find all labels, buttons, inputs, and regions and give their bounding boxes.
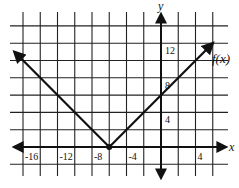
y-tick-label: 4	[165, 114, 170, 125]
vertex-point	[106, 144, 112, 150]
x-tick-label: -8	[94, 151, 102, 162]
y-tick-label: 8	[165, 80, 170, 91]
absolute-value-graph: -16-12-8-44 1284 x y f(x)	[0, 0, 239, 188]
function-label: f(x)	[212, 51, 230, 66]
y-axis-label: y	[157, 0, 164, 13]
grid-lines	[10, 12, 228, 176]
x-tick-labels: -16-12-8-44	[25, 151, 203, 162]
x-tick-label: 4	[198, 151, 203, 162]
x-tick-label: -12	[60, 151, 73, 162]
x-axis-label: x	[228, 140, 235, 154]
x-tick-label: -4	[129, 151, 137, 162]
x-tick-label: -16	[25, 151, 38, 162]
y-tick-label: 12	[165, 45, 175, 56]
